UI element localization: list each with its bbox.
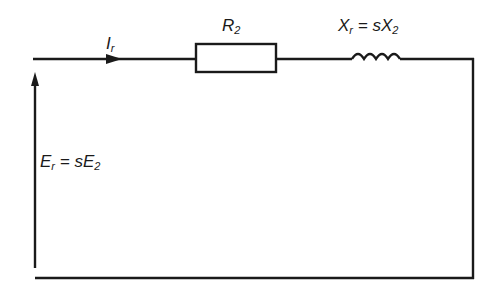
emf-arrow-head [31,72,39,86]
current-label: Ir [106,34,114,54]
current-arrow-head [106,54,122,64]
reactance-label: Xr = sX2 [338,16,398,36]
resistor-r2 [196,44,276,72]
resistor-label: R2 [222,16,240,36]
inductor-coil [352,54,400,59]
emf-label: Er = sE2 [40,152,100,172]
circuit-diagram [0,0,495,289]
